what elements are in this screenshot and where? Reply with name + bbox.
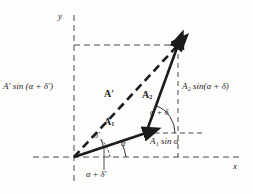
projection-label-a-prime-sin: A′ sin (α + δ′) — [3, 82, 53, 91]
x-axis-label: x — [233, 162, 237, 171]
vector-label-a1: A1 — [104, 117, 114, 127]
vector-label-a-prime: A′ — [104, 89, 114, 99]
vector-label-a2: A2 — [142, 90, 152, 100]
vector-a2 — [146, 45, 178, 133]
angle-label-alpha-plus-delta-prime: α + δ′ — [86, 170, 106, 179]
projection-label-a1-sin: A₁ sin α — [150, 137, 178, 146]
angle-label-alpha: α — [121, 139, 125, 148]
vector-diagram-figure: y x A′ A1 A2 α δ′ α + δ′ α + δ A′ sin (α… — [0, 0, 253, 194]
angle-label-delta-prime: δ′ — [94, 131, 100, 140]
axis-lines — [33, 15, 240, 181]
diagram-canvas — [0, 0, 253, 194]
projection-label-a2-sin: A₂ sin(α + δ) — [182, 82, 229, 91]
y-axis-label: y — [58, 12, 62, 21]
angle-label-alpha-plus-delta: α + δ — [150, 108, 168, 117]
